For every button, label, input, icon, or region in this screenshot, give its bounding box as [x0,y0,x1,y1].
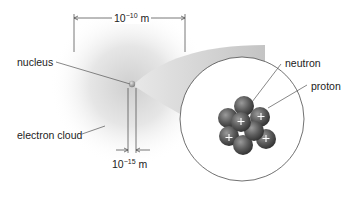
proton-label: proton [311,81,341,92]
atom-size-label: 10−10 m [113,12,150,24]
electron-cloud-label: electron cloud [17,130,82,141]
nucleus-size-label: 10−15 m [111,158,148,170]
atom-diagram [0,0,359,200]
nucleus-label: nucleus [17,57,53,68]
neutron-label: neutron [285,58,321,69]
